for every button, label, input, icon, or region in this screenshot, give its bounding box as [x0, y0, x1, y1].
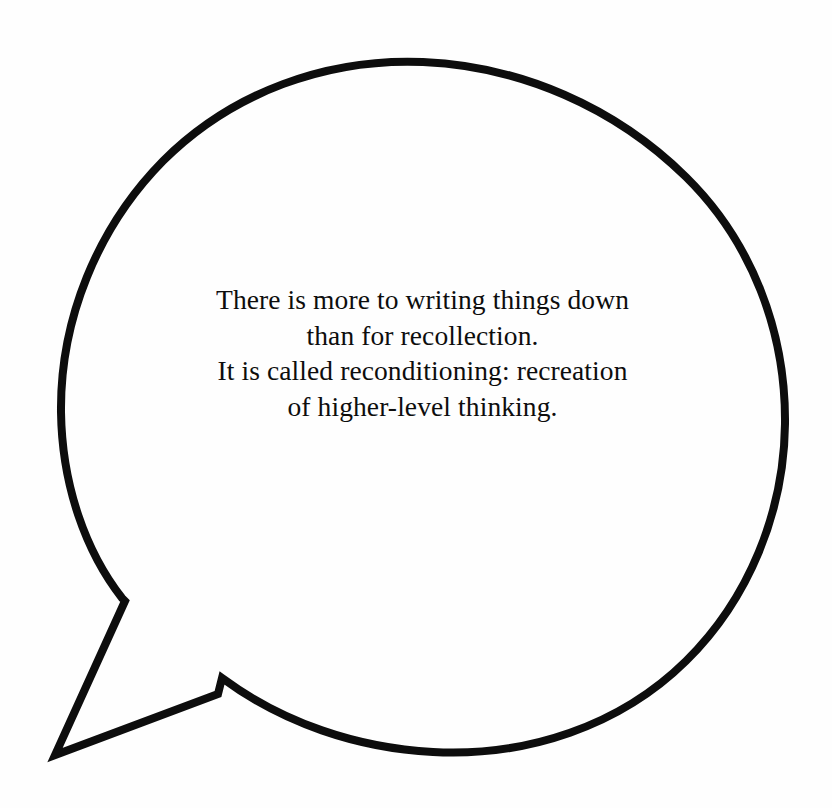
illustration-canvas: There is more to writing things down tha… [0, 0, 832, 808]
quote-line-1: There is more to writing things down [150, 282, 695, 318]
quote-line-2: than for recollection. [150, 318, 695, 354]
quote-line-4: of higher-level thinking. [150, 389, 695, 425]
quote-line-3: It is called reconditioning: recreation [150, 353, 695, 389]
quote-text-block: There is more to writing things down tha… [150, 282, 695, 424]
